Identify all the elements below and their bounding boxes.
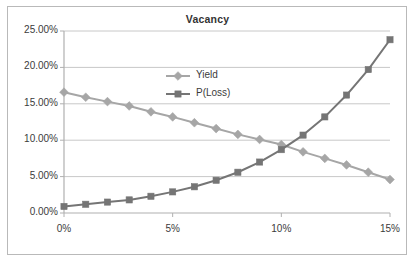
data-point-marker: [170, 189, 176, 195]
series-p-loss: [61, 37, 393, 210]
legend-markers: [166, 72, 190, 97]
data-point-marker: [257, 159, 263, 165]
data-point-marker: [104, 199, 110, 205]
data-point-marker: [212, 124, 221, 133]
data-point-marker: [175, 91, 181, 97]
legend-label-p-loss: P(Loss): [196, 87, 230, 98]
y-axis-tick-label: 25.00%: [10, 24, 58, 35]
data-point-marker: [322, 114, 328, 120]
x-axis-tick-label: 10%: [261, 223, 301, 234]
data-point-marker: [147, 107, 156, 116]
data-point-marker: [299, 147, 308, 156]
series-line: [64, 92, 390, 179]
data-point-marker: [168, 113, 177, 122]
y-axis-tick-label: 0.00%: [10, 206, 58, 217]
data-point-marker: [174, 72, 183, 81]
data-point-marker: [342, 161, 351, 170]
data-point-marker: [343, 92, 349, 98]
legend-label-yield: Yield: [196, 69, 218, 80]
data-point-marker: [278, 147, 284, 153]
y-axis-tick-label: 15.00%: [10, 97, 58, 108]
data-point-marker: [191, 184, 197, 190]
vacancy-chart: Vacancy 0.00%5.00%10.00%15.00%20.00%25.0…: [0, 0, 415, 263]
axis-lines: [60, 31, 390, 217]
data-point-marker: [190, 118, 199, 127]
data-point-marker: [300, 132, 306, 138]
x-axis-tick-label: 15%: [370, 223, 410, 234]
data-point-marker: [255, 135, 264, 144]
data-point-marker: [126, 197, 132, 203]
data-point-marker: [235, 169, 241, 175]
data-point-marker: [387, 37, 393, 43]
data-point-marker: [60, 88, 69, 97]
gridlines: [64, 31, 390, 177]
data-point-marker: [103, 97, 112, 106]
series-yield: [60, 88, 395, 184]
data-point-marker: [125, 102, 134, 111]
data-point-marker: [61, 203, 67, 209]
x-axis-tick-label: 5%: [153, 223, 193, 234]
data-point-marker: [148, 193, 154, 199]
x-axis-tick-label: 0%: [44, 223, 84, 234]
series-layer: [60, 37, 395, 210]
data-point-marker: [320, 154, 329, 163]
y-axis-tick-label: 10.00%: [10, 133, 58, 144]
data-point-marker: [233, 130, 242, 139]
data-point-marker: [213, 177, 219, 183]
y-axis-tick-label: 5.00%: [10, 170, 58, 181]
data-point-marker: [365, 66, 371, 72]
data-point-marker: [83, 201, 89, 207]
data-point-marker: [81, 93, 90, 102]
y-axis-tick-label: 20.00%: [10, 60, 58, 71]
data-point-marker: [364, 168, 373, 177]
series-line: [64, 40, 390, 207]
